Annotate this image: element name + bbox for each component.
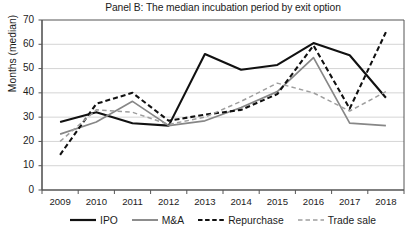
y-tick-label: 20	[8, 135, 34, 146]
legend-item-ma[interactable]: M&A	[132, 215, 184, 226]
solid-gray-line-icon	[132, 215, 158, 225]
x-tick-label: 2018	[364, 196, 408, 207]
chart-legend: IPO M&A Repurchase T	[42, 211, 404, 229]
y-tick-label: 50	[8, 62, 34, 73]
legend-item-trade-sale[interactable]: Trade sale	[298, 215, 376, 226]
solid-black-line-icon	[70, 215, 96, 225]
y-tick-label: 0	[8, 184, 34, 195]
y-tick-label: 60	[8, 38, 34, 49]
legend-label-trade-sale: Trade sale	[328, 215, 376, 226]
chart-figure: Panel B: The median incubation period by…	[0, 0, 416, 232]
legend-label-ma: M&A	[162, 215, 184, 226]
dashed-gray-line-icon	[298, 215, 324, 225]
y-tick-label: 10	[8, 159, 34, 170]
dashed-black-line-icon	[198, 215, 224, 225]
legend-label-repurchase: Repurchase	[228, 215, 284, 226]
y-tick-label: 40	[8, 86, 34, 97]
y-tick-label: 30	[8, 111, 34, 122]
y-tick-label: 70	[8, 14, 34, 25]
legend-label-ipo: IPO	[100, 215, 118, 226]
legend-item-repurchase[interactable]: Repurchase	[198, 215, 284, 226]
plot-background	[42, 20, 404, 190]
legend-item-ipo[interactable]: IPO	[70, 215, 118, 226]
